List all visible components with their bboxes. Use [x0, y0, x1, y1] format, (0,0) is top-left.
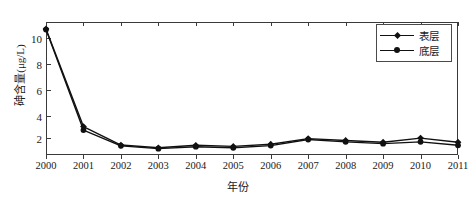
x-tick-mark-2001 — [83, 155, 84, 159]
y-axis-title: 砷含量(μg/L) — [11, 15, 27, 135]
legend-label-bottom: 底层 — [414, 43, 439, 58]
legend-item-bottom: 底层 — [380, 43, 447, 58]
x-tick-label-2004: 2004 — [185, 160, 206, 171]
x-tick-label-2008: 2008 — [335, 160, 356, 171]
x-tick-label-2009: 2009 — [373, 160, 394, 171]
y-tick-label-8: 8 — [37, 60, 43, 71]
y-tick-label-10: 10 — [31, 34, 42, 45]
y-tick-label-4: 4 — [37, 112, 43, 123]
y-tick-label-2: 2 — [37, 134, 43, 145]
x-tick-label-2010: 2010 — [410, 160, 431, 171]
x-tick-mark-top-2011 — [458, 22, 459, 26]
legend-item-surface: 表层 — [380, 28, 447, 43]
data-point-surface-2000 — [43, 26, 50, 33]
x-tick-mark-2010 — [421, 155, 422, 159]
x-tick-label-2000: 2000 — [36, 160, 57, 171]
x-tick-mark-2005 — [233, 155, 234, 159]
line-chart-figure: 10 8 6 4 2 20002001200220032004200520062… — [0, 0, 476, 202]
circle-marker-icon — [380, 45, 414, 56]
x-tick-mark-2007 — [308, 155, 309, 159]
chart-legend: 表层 底层 — [376, 24, 452, 62]
x-tick-label-2001: 2001 — [73, 160, 94, 171]
x-tick-label-2006: 2006 — [260, 160, 281, 171]
x-tick-mark-2006 — [271, 155, 272, 159]
x-tick-label-2007: 2007 — [298, 160, 319, 171]
x-tick-label-2011: 2011 — [448, 160, 469, 171]
x-tick-mark-2000 — [46, 155, 47, 159]
x-tick-mark-2008 — [346, 155, 347, 159]
x-axis-title: 年份 — [0, 178, 476, 194]
x-tick-mark-2002 — [121, 155, 122, 159]
legend-label-surface: 表层 — [414, 28, 439, 43]
y-tick-label-6: 6 — [37, 86, 43, 97]
x-tick-label-2005: 2005 — [223, 160, 244, 171]
diamond-marker-icon — [380, 30, 414, 41]
x-tick-mark-2004 — [196, 155, 197, 159]
x-tick-mark-2003 — [158, 155, 159, 159]
x-tick-mark-2011 — [458, 155, 459, 159]
x-tick-label-2003: 2003 — [148, 160, 169, 171]
x-tick-label-2002: 2002 — [110, 160, 131, 171]
x-tick-mark-2009 — [383, 155, 384, 159]
